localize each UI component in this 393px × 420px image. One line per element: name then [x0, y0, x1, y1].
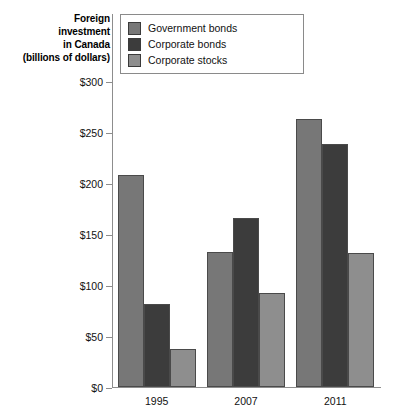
legend-item-label: Corporate bonds: [148, 38, 226, 50]
y-axis-tick-label: $50: [85, 331, 103, 343]
chart-legend: Government bonds Corporate bonds Corpora…: [120, 14, 304, 74]
y-axis-tick: [106, 133, 112, 134]
x-axis-category-label: 2007: [234, 395, 257, 407]
bar: [259, 293, 285, 387]
legend-item: Corporate bonds: [128, 36, 297, 52]
bar-chart: Foreign investment in Canada (billions o…: [0, 0, 393, 420]
y-axis-tick: [106, 82, 112, 83]
y-axis-title-line-1: Foreign: [6, 12, 110, 25]
x-axis-line: [112, 387, 381, 388]
legend-item: Corporate stocks: [128, 52, 297, 68]
y-axis-line: [112, 14, 113, 388]
plot-area: $0$50$100$150$200$250$300 199520072011: [112, 82, 380, 388]
y-axis-tick: [106, 235, 112, 236]
legend-item-label: Government bonds: [148, 22, 237, 34]
y-axis-tick-label: $250: [80, 127, 103, 139]
y-axis-tick-label: $100: [80, 280, 103, 292]
y-axis-title: Foreign investment in Canada (billions o…: [6, 12, 110, 64]
y-axis-tick-label: $0: [91, 382, 103, 394]
bar: [144, 304, 170, 387]
bar: [207, 252, 233, 387]
y-axis-title-line-4: (billions of dollars): [6, 51, 110, 64]
y-axis-tick-label: $150: [80, 229, 103, 241]
legend-swatch-icon: [128, 22, 141, 35]
y-axis-tick-label: $200: [80, 178, 103, 190]
y-axis-title-line-2: investment: [6, 25, 110, 38]
bar: [322, 144, 348, 387]
y-axis-title-line-3: in Canada: [6, 38, 110, 51]
y-axis-tick-label: $300: [80, 76, 103, 88]
bar: [348, 253, 374, 387]
bar: [170, 349, 196, 387]
x-axis-category-label: 2011: [324, 395, 347, 407]
legend-swatch-icon: [128, 38, 141, 51]
legend-item-label: Corporate stocks: [148, 54, 227, 66]
bar: [118, 175, 144, 387]
legend-item: Government bonds: [128, 20, 297, 36]
y-axis-tick: [106, 337, 112, 338]
bar: [296, 119, 322, 387]
y-axis-tick: [106, 286, 112, 287]
y-axis-tick: [106, 184, 112, 185]
y-axis-tick: [106, 388, 112, 389]
x-axis-category-label: 1995: [145, 395, 168, 407]
legend-swatch-icon: [128, 54, 141, 67]
bar: [233, 218, 259, 387]
